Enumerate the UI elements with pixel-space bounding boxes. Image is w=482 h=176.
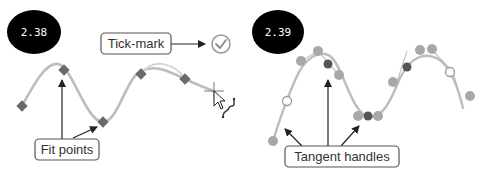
fit-point[interactable] — [364, 112, 373, 121]
tangent-handles — [268, 44, 475, 146]
tangent-handle[interactable] — [465, 91, 475, 101]
fit-points-label: Fit points — [41, 142, 94, 157]
fit-points — [324, 60, 412, 121]
tangent-handle-open[interactable] — [283, 97, 292, 106]
fit-point[interactable] — [16, 100, 27, 111]
tangent-handle[interactable] — [415, 45, 425, 55]
tangent-spline-curve — [273, 54, 463, 141]
spline-icon — [223, 99, 234, 117]
tangent-handle[interactable] — [268, 136, 278, 146]
fit-point[interactable] — [403, 63, 412, 72]
tangent-handle[interactable] — [373, 111, 383, 121]
badge-label: 2.38 — [21, 26, 48, 39]
tangent-handle[interactable] — [334, 70, 344, 80]
tangent-handle[interactable] — [353, 111, 363, 121]
tangent-handle[interactable] — [296, 56, 306, 66]
figure-badge-2-39: 2.39 — [252, 10, 304, 54]
figure-badge-2-38: 2.38 — [7, 10, 61, 54]
tick-mark-callout: Tick-mark — [101, 33, 205, 54]
tangent-handle[interactable] — [427, 44, 437, 54]
tangent-handles-callout: Tangent handles — [285, 80, 399, 167]
tangent-handle[interactable] — [388, 77, 398, 87]
badge-label: 2.39 — [265, 26, 292, 39]
tangent-handle[interactable] — [313, 46, 323, 56]
tangent-handles-label: Tangent handles — [294, 149, 390, 164]
fit-point[interactable] — [324, 60, 333, 69]
fit-points-callout: Fit points — [35, 80, 99, 160]
tick-mark-label: Tick-mark — [108, 36, 165, 51]
fit-point[interactable] — [97, 116, 108, 127]
arrow-pointer-icon — [214, 91, 225, 109]
open-tangent-handles — [283, 68, 455, 106]
check-circle-icon[interactable] — [212, 35, 230, 53]
fit-spline-curve — [22, 64, 214, 122]
spline-figure: 2.38 Tick-mark — [0, 0, 482, 176]
panel-2-38: 2.38 Tick-mark — [7, 10, 235, 160]
panel-2-39: 2.39 — [252, 10, 475, 167]
tangent-handle-open[interactable] — [446, 68, 455, 77]
